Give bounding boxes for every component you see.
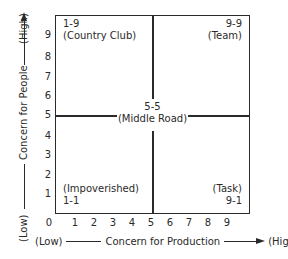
quadrant-top-left: 1-9 (Country Club) [63, 18, 136, 42]
quadrant-top-right: 9-9 (Team) [208, 18, 242, 42]
y-tick-3: 3 [42, 150, 54, 160]
y-axis-high-label: (High) [18, 13, 30, 44]
y-tick-9: 9 [42, 30, 54, 40]
y-axis-line-lower [24, 164, 25, 209]
x-tick-8: 8 [202, 218, 214, 228]
x-axis-low-label: (Low) [35, 236, 63, 247]
quadrant-code: 1-9 [63, 18, 136, 30]
x-axis-line-left [66, 241, 101, 242]
y-tick-2: 2 [42, 170, 54, 180]
x-axis-title: Concern for Production [106, 236, 221, 247]
x-tick-0: 0 [43, 218, 55, 228]
x-axis-line-right [224, 241, 256, 242]
vertical-midline-top [152, 15, 154, 99]
y-axis-title: Concern for People [18, 65, 30, 160]
x-tick-2: 2 [88, 218, 100, 228]
quadrant-center: 5-5 (Middle Road) [117, 101, 188, 125]
horizontal-midline-left [55, 115, 117, 117]
quadrant-bottom-right: (Task) 9-1 [213, 183, 242, 207]
quadrant-bottom-left: (Impoverished) 1-1 [63, 183, 139, 207]
x-axis-row: (Low) Concern for Production (High) [35, 234, 288, 248]
quadrant-code: 5-5 [117, 101, 188, 113]
quadrant-name: (Team) [208, 30, 242, 42]
x-axis-high-label: (High) [268, 236, 288, 247]
vertical-midline-bottom [152, 131, 154, 213]
quadrant-name: (Country Club) [63, 30, 136, 42]
quadrant-name: (Middle Road) [117, 113, 188, 125]
y-tick-7: 7 [42, 72, 54, 82]
quadrant-name: (Task) [213, 183, 242, 195]
x-tick-4: 4 [126, 218, 138, 228]
y-tick-6: 6 [42, 91, 54, 101]
quadrant-name: (Impoverished) [63, 183, 139, 195]
quadrant-code: 9-1 [213, 195, 242, 207]
y-tick-8: 8 [42, 52, 54, 62]
y-tick-5: 5 [42, 110, 54, 120]
x-tick-3: 3 [107, 218, 119, 228]
x-tick-9: 9 [221, 218, 233, 228]
x-tick-6: 6 [164, 218, 176, 228]
y-axis-low-label: (Low) [18, 215, 30, 243]
y-tick-4: 4 [42, 131, 54, 141]
quadrant-code: 9-9 [208, 18, 242, 30]
horizontal-midline-right [188, 115, 249, 117]
quadrant-code: 1-1 [63, 195, 139, 207]
x-tick-7: 7 [183, 218, 195, 228]
x-axis-arrow-right-icon [256, 238, 265, 244]
y-tick-1: 1 [42, 189, 54, 199]
x-tick-1: 1 [69, 218, 81, 228]
x-tick-5: 5 [145, 218, 157, 228]
